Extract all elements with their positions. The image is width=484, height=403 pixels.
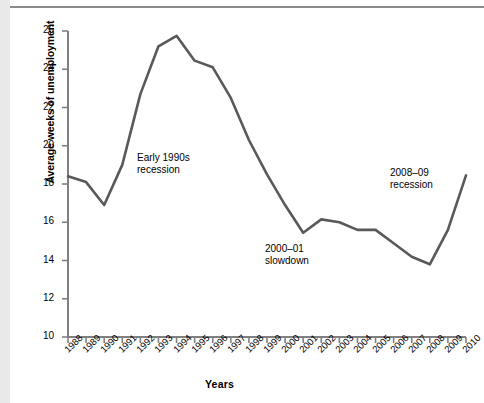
annotation-line: recession [390,179,433,191]
annotation-early-1990s-recession: Early 1990srecession [137,152,190,176]
unemployment-weeks-line-series [68,36,466,265]
y-tick-label: 12 [32,292,54,303]
x-axis-title: Years [205,378,234,390]
annotation-line: recession [137,164,190,176]
annotation-2008-09-recession: 2008–09recession [390,167,433,191]
annotation-line: 2000–01 [265,243,309,255]
y-axis-title: Average weeks of unemployment [44,0,56,212]
y-tick-label: 10 [32,330,54,341]
annotation-line: Early 1990s [137,152,190,164]
annotation-line: 2008–09 [390,167,433,179]
annotation-2000-01-slowdown: 2000–01slowdown [265,243,309,267]
chart-figure: 262422201816141210 198819891990199119921… [0,0,484,403]
annotation-line: slowdown [265,255,309,267]
y-tick-label: 16 [32,215,54,226]
y-tick-label: 14 [32,254,54,265]
